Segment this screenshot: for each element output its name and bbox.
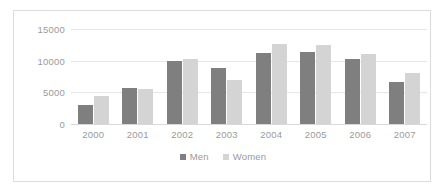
bar-men-2006[interactable] — [345, 59, 360, 124]
bar-women-2000[interactable] — [94, 96, 109, 125]
bar-men-2002[interactable] — [167, 61, 182, 124]
bar-group — [383, 29, 428, 124]
bar-women-2004[interactable] — [272, 44, 287, 124]
legend-item-men[interactable]: Men — [180, 151, 209, 162]
bar-group — [338, 29, 383, 124]
bar-men-2004[interactable] — [256, 53, 271, 124]
x-axis-tick-label: 2004 — [249, 129, 294, 140]
chart-frame: 050001000015000 200020012002200320042005… — [13, 10, 431, 182]
plot-area: 050001000015000 — [71, 29, 427, 124]
x-axis-tick-label: 2003 — [205, 129, 250, 140]
x-axis-tick-labels: 20002001200220032004200520062007 — [71, 129, 427, 140]
x-axis-tick-label: 2000 — [71, 129, 116, 140]
bar-men-2007[interactable] — [389, 82, 404, 124]
x-axis-tick-label: 2007 — [383, 129, 428, 140]
legend-swatch-icon — [180, 154, 186, 160]
bar-men-2003[interactable] — [211, 68, 226, 124]
y-axis-tick-label: 15000 — [38, 24, 65, 35]
chart-legend: MenWomen — [14, 151, 432, 162]
x-axis-tick-label: 2001 — [116, 129, 161, 140]
bar-men-2005[interactable] — [300, 52, 315, 124]
bar-group — [294, 29, 339, 124]
x-axis-tick-label: 2005 — [294, 129, 339, 140]
bar-group — [116, 29, 161, 124]
y-axis-tick-label: 5000 — [43, 87, 65, 98]
bar-women-2005[interactable] — [316, 45, 331, 124]
x-axis-tick-label: 2006 — [338, 129, 383, 140]
value-axis-baseline — [71, 124, 427, 125]
bar-women-2003[interactable] — [227, 80, 242, 124]
y-axis-tick-label: 0 — [60, 119, 65, 130]
legend-swatch-icon — [223, 154, 229, 160]
bar-women-2006[interactable] — [361, 54, 376, 124]
bar-group — [71, 29, 116, 124]
bar-group — [160, 29, 205, 124]
bar-men-2000[interactable] — [78, 105, 93, 124]
bar-series-container — [71, 29, 427, 124]
legend-item-women[interactable]: Women — [223, 151, 267, 162]
bar-group — [249, 29, 294, 124]
bar-women-2001[interactable] — [138, 89, 153, 124]
legend-label: Men — [190, 151, 209, 162]
bar-women-2007[interactable] — [405, 73, 420, 124]
x-axis-tick-label: 2002 — [160, 129, 205, 140]
y-axis-tick-label: 10000 — [38, 55, 65, 66]
bar-women-2002[interactable] — [183, 59, 198, 124]
bar-men-2001[interactable] — [122, 88, 137, 124]
bar-group — [205, 29, 250, 124]
legend-label: Women — [233, 151, 267, 162]
